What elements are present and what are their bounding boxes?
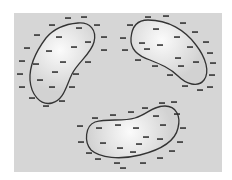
negative-charge-outside: [180, 127, 186, 129]
negative-charge-outside: [86, 152, 92, 154]
negative-charge-inside: [153, 28, 159, 30]
negative-charge-outside: [169, 150, 175, 152]
negative-charge-outside: [120, 167, 126, 169]
negative-charge-outside: [59, 100, 65, 102]
negative-charge-outside: [209, 74, 215, 76]
negative-charge-inside: [49, 86, 55, 88]
charged-conductors-diagram: [0, 0, 232, 180]
negative-charge-outside: [180, 22, 186, 24]
negative-charge-inside: [160, 124, 166, 126]
negative-charge-outside: [182, 85, 188, 87]
negative-charge-inside: [76, 27, 82, 29]
negative-charge-inside: [187, 46, 193, 48]
negative-charge-outside: [120, 37, 126, 39]
negative-charge-outside: [95, 158, 101, 160]
negative-charge-inside: [157, 138, 163, 140]
negative-charge-outside: [94, 24, 100, 26]
negative-charge-inside: [33, 63, 39, 65]
negative-charge-inside: [60, 61, 66, 63]
negative-charge-inside: [71, 46, 77, 48]
negative-charge-outside: [19, 86, 25, 88]
negative-charge-outside: [34, 34, 40, 36]
negative-charge-outside: [167, 74, 173, 76]
negative-charge-outside: [69, 86, 75, 88]
negative-charge-outside: [17, 73, 23, 75]
negative-charge-inside: [174, 36, 180, 38]
negative-charge-outside: [152, 65, 158, 67]
negative-charge-inside: [115, 124, 121, 126]
negative-charge-outside: [65, 17, 71, 19]
negative-charge-inside: [46, 50, 52, 52]
negative-charge-inside: [144, 48, 150, 50]
negative-charge-outside: [135, 59, 141, 61]
negative-charge-inside: [133, 127, 139, 129]
negative-charge-outside: [145, 16, 151, 18]
negative-charge-outside: [24, 47, 30, 49]
negative-charge-outside: [81, 16, 87, 18]
negative-charge-outside: [101, 36, 107, 38]
negative-charge-inside: [178, 65, 184, 67]
negative-charge-outside: [92, 117, 98, 119]
negative-charge-inside: [117, 147, 123, 149]
negative-charge-outside: [127, 24, 133, 26]
negative-charge-outside: [77, 125, 83, 127]
negative-charge-outside: [207, 52, 213, 54]
negative-charge-outside: [192, 31, 198, 33]
negative-charge-outside: [85, 61, 91, 63]
negative-charge-inside: [157, 44, 163, 46]
negative-charge-outside: [49, 24, 55, 26]
negative-charge-outside: [163, 15, 169, 16]
negative-charge-outside: [43, 105, 49, 107]
negative-charge-outside: [128, 111, 134, 113]
negative-charge-inside: [56, 36, 62, 38]
negative-charge-outside: [197, 89, 203, 91]
negative-charge-outside: [78, 141, 84, 143]
negative-charge-inside: [136, 143, 142, 145]
negative-charge-outside: [171, 101, 177, 103]
negative-charge-inside: [85, 41, 91, 43]
negative-charge-outside: [101, 49, 107, 51]
negative-charge-outside: [207, 86, 213, 88]
negative-charge-inside: [100, 142, 106, 144]
negative-charge-inside: [130, 151, 136, 153]
negative-charge-inside: [143, 136, 149, 138]
negative-charge-outside: [157, 157, 163, 159]
negative-charge-outside: [73, 73, 79, 75]
negative-charge-inside: [153, 115, 159, 117]
negative-charge-outside: [110, 114, 116, 116]
diagram-canvas: [0, 0, 232, 180]
negative-charge-inside: [175, 57, 181, 59]
negative-charge-outside: [142, 107, 148, 109]
negative-charge-outside: [210, 62, 216, 64]
negative-charge-inside: [139, 42, 145, 44]
negative-charge-outside: [122, 49, 128, 51]
negative-charge-inside: [96, 127, 102, 129]
negative-charge-outside: [159, 102, 165, 104]
negative-charge-inside: [52, 71, 58, 73]
negative-charge-inside: [37, 79, 43, 81]
negative-charge-inside: [193, 61, 199, 63]
negative-charge-outside: [29, 97, 35, 99]
negative-charge-outside: [203, 41, 209, 43]
negative-charge-outside: [140, 162, 146, 164]
negative-charge-outside: [174, 113, 180, 115]
negative-charge-outside: [177, 141, 183, 143]
negative-charge-outside: [114, 162, 120, 164]
negative-charge-outside: [19, 60, 25, 62]
